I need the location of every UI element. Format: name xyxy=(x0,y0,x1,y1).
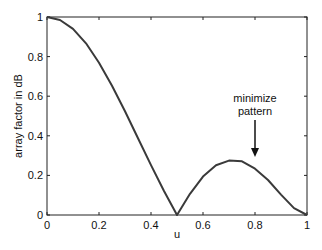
x-tick-label: 0.8 xyxy=(247,219,262,231)
y-tick-labels: 00.20.40.60.81 xyxy=(28,11,43,221)
arrow-head-icon xyxy=(251,148,259,157)
y-tick-label: 0.8 xyxy=(28,51,43,63)
y-tick-label: 1 xyxy=(37,11,43,23)
minimize-pattern-annotation: minimize pattern xyxy=(233,92,276,157)
x-tick-label: 0.4 xyxy=(143,219,158,231)
annotation-line-2: pattern xyxy=(238,105,272,117)
y-axis-label: array factor in dB xyxy=(12,74,24,158)
x-tick-label: 0 xyxy=(44,219,50,231)
y-tick-label: 0 xyxy=(37,209,43,221)
y-tick-label: 0.4 xyxy=(28,130,43,142)
x-tick-label: 0.2 xyxy=(91,219,106,231)
y-tick-label: 0.2 xyxy=(28,169,43,181)
y-tick-label: 0.6 xyxy=(28,90,43,102)
array-factor-chart: 00.20.40.60.81 00.20.40.60.81 u array fa… xyxy=(0,0,322,250)
x-axis-label: u xyxy=(174,228,180,240)
annotation-line-1: minimize xyxy=(233,92,276,104)
x-tick-label: 1 xyxy=(304,219,310,231)
x-tick-label: 0.6 xyxy=(195,219,210,231)
